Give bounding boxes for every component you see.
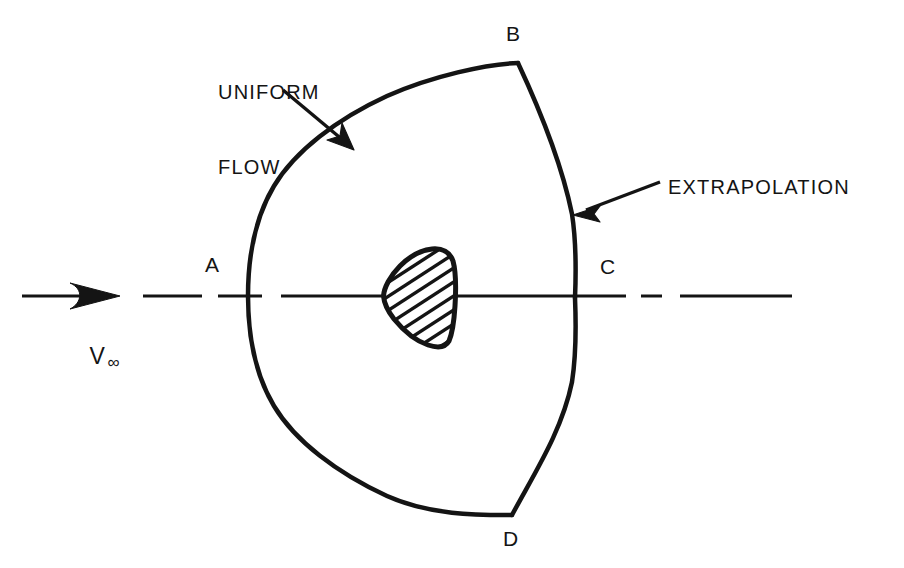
freestream-velocity-symbol: V: [90, 343, 106, 369]
extrapolation-leader-line: [586, 182, 660, 210]
point-label-a: A: [205, 253, 220, 277]
uniform-flow-label-line2: FLOW: [218, 155, 320, 180]
point-label-b: B: [506, 22, 521, 46]
point-label-d: D: [503, 527, 519, 551]
shock-curve-ad: [248, 296, 512, 515]
freestream-infinity-icon: ∞: [105, 353, 120, 372]
uniform-flow-label: UNIFORM FLOW: [218, 30, 320, 230]
uniform-flow-label-line1: UNIFORM: [218, 80, 320, 105]
freestream-velocity-label: V∞: [62, 316, 120, 400]
blunt-body: [330, 223, 480, 460]
diagram-vector-layer: [0, 0, 904, 568]
extrapolation-leader: [573, 182, 660, 222]
point-label-c: C: [600, 255, 616, 279]
extrapolation-curve-bc: [518, 63, 576, 298]
extrapolation-curve-cd: [512, 298, 576, 515]
diagram-canvas: UNIFORM FLOW EXTRAPOLATION A B C D V∞: [0, 0, 904, 568]
extrapolation-label: EXTRAPOLATION: [668, 175, 850, 200]
